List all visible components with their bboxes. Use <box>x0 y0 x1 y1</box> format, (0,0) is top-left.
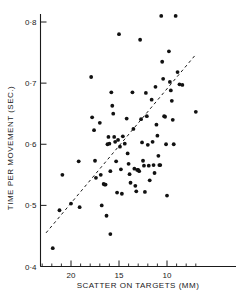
data-point <box>194 110 198 114</box>
data-point <box>156 154 160 158</box>
data-point <box>115 191 119 195</box>
data-point <box>126 152 130 156</box>
x-tick-label: 10 <box>163 271 172 280</box>
data-point <box>69 202 73 206</box>
data-point <box>146 143 150 147</box>
data-point <box>127 162 131 166</box>
data-point <box>132 127 136 131</box>
data-point <box>163 115 167 119</box>
data-point <box>123 142 127 146</box>
data-point <box>117 32 121 36</box>
data-point <box>99 173 103 177</box>
data-point <box>167 49 171 53</box>
data-point <box>90 115 94 119</box>
data-point <box>112 135 116 139</box>
data-point <box>121 134 125 138</box>
data-point-group <box>51 14 198 250</box>
data-point <box>156 134 160 138</box>
data-point <box>58 208 62 212</box>
data-point <box>161 77 165 81</box>
data-point <box>152 163 156 167</box>
data-point <box>105 214 109 218</box>
data-point <box>168 80 172 84</box>
data-point <box>133 184 137 188</box>
data-point <box>154 85 158 89</box>
data-point <box>160 60 164 64</box>
data-point <box>143 190 147 194</box>
y-axis-title: TIME PER MOVEMENT (SEC.) <box>6 86 15 210</box>
data-point <box>150 98 154 102</box>
x-tick-group <box>42 261 196 267</box>
data-point <box>170 99 174 103</box>
x-axis-title: SCATTER ON TARGETS (MM) <box>77 281 200 290</box>
data-point <box>108 169 112 173</box>
data-point <box>134 189 138 193</box>
data-point <box>93 159 97 163</box>
data-point <box>109 90 113 94</box>
data-point <box>148 178 152 182</box>
data-point <box>158 163 162 167</box>
data-point <box>51 246 55 250</box>
data-point <box>89 75 93 79</box>
data-point <box>147 164 151 168</box>
data-point <box>141 159 145 163</box>
data-point <box>145 114 149 118</box>
data-point <box>138 38 142 42</box>
x-tick-label-group: 201510 <box>67 271 172 280</box>
data-point <box>180 83 184 87</box>
axis-group <box>41 14 237 267</box>
data-point <box>92 128 96 132</box>
data-point <box>174 14 178 18</box>
y-tick-label-group: 0·80·70·60·50·4 <box>25 18 37 272</box>
y-tick-label: 0·4 <box>25 263 37 272</box>
data-point <box>114 159 118 163</box>
data-point <box>159 14 163 18</box>
data-point <box>128 172 132 176</box>
y-tick-label: 0·6 <box>25 140 37 149</box>
data-point <box>129 181 133 185</box>
data-point <box>151 140 155 144</box>
data-point <box>137 169 141 173</box>
data-point <box>155 123 159 127</box>
data-point <box>153 171 157 175</box>
data-point <box>120 192 124 196</box>
data-point <box>125 117 129 121</box>
data-point <box>94 176 98 180</box>
data-point <box>176 70 180 74</box>
data-point <box>165 194 169 198</box>
data-point <box>60 173 64 177</box>
data-point <box>78 205 82 209</box>
data-point <box>164 142 168 146</box>
data-point <box>108 232 112 236</box>
data-point <box>118 145 122 149</box>
data-point <box>108 142 112 146</box>
data-point <box>100 203 104 207</box>
x-tick-label: 15 <box>115 271 124 280</box>
data-point <box>116 138 120 142</box>
data-point <box>172 142 176 146</box>
data-point <box>119 167 123 171</box>
data-point <box>104 183 108 187</box>
scatter-plot-figure: 0·80·70·60·50·4 201510 SCATTER ON TARGET… <box>0 0 240 294</box>
data-point <box>142 164 146 168</box>
data-point <box>139 117 143 121</box>
data-point <box>77 159 81 163</box>
data-point <box>144 91 148 95</box>
y-tick-label: 0·5 <box>25 201 37 210</box>
data-point <box>140 141 144 145</box>
data-point <box>107 135 111 139</box>
plot-canvas: 0·80·70·60·50·4 201510 SCATTER ON TARGET… <box>0 0 240 294</box>
data-point <box>169 89 173 93</box>
data-point <box>131 90 135 94</box>
data-point <box>98 121 102 125</box>
data-point <box>110 104 114 108</box>
y-tick-group <box>41 22 47 267</box>
data-point <box>111 112 115 116</box>
y-tick-label: 0·7 <box>25 79 37 88</box>
x-tick-label: 20 <box>67 271 76 280</box>
y-tick-label: 0·8 <box>25 18 37 27</box>
data-point <box>171 118 175 122</box>
